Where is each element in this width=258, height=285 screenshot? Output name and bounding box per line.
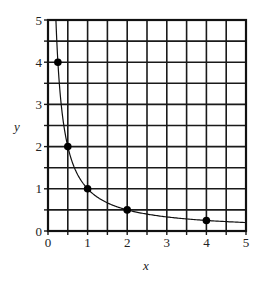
data-point [64,143,72,151]
grid-lines [44,20,246,235]
y-axis-label: y [12,119,20,134]
x-tick-label: 3 [164,235,171,250]
data-point [84,185,92,193]
x-tick-label: 0 [45,235,52,250]
x-axis-label: x [142,258,149,273]
x-tick-label: 1 [84,235,91,250]
y-tick-label: 3 [36,97,43,112]
x-tick-label: 2 [124,235,131,250]
y-tick-label: 0 [36,224,43,239]
y-tick-label: 2 [36,139,43,154]
y-tick-label: 5 [36,13,43,28]
chart: 012345 012345 x y [0,0,258,285]
y-tick-label: 1 [36,181,43,196]
data-point [203,217,211,225]
x-tick-labels: 012345 [45,235,250,250]
x-tick-label: 4 [203,235,210,250]
y-tick-label: 4 [36,55,43,70]
data-point [123,206,131,214]
hyperbola-curve [56,20,246,223]
y-tick-labels: 012345 [36,13,43,239]
data-point [54,58,62,66]
x-tick-label: 5 [243,235,250,250]
